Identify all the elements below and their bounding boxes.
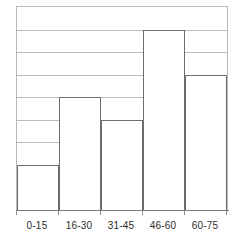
tick-mark [58, 211, 59, 215]
tick-mark [100, 211, 101, 215]
x-axis-tick-label: 16-30 [58, 219, 100, 233]
tick-mark [142, 211, 143, 215]
histogram-chart: 0-1516-3031-4546-6060-75 [0, 0, 239, 242]
x-axis-tick-label: 31-45 [100, 219, 142, 233]
bar [17, 165, 59, 210]
tick-mark [226, 211, 227, 215]
x-axis-line [16, 210, 229, 211]
tick-mark [16, 211, 17, 215]
bar [59, 97, 101, 210]
bars-group [17, 7, 227, 210]
bar [101, 120, 143, 210]
bar [143, 30, 185, 210]
plot-area [16, 6, 228, 211]
x-axis-tick-labels: 0-1516-3031-4546-6060-75 [16, 219, 228, 237]
bar [185, 75, 227, 210]
x-axis-tick-label: 60-75 [184, 219, 226, 233]
tick-mark [184, 211, 185, 215]
x-axis-tick-label: 0-15 [16, 219, 58, 233]
x-axis-tick-label: 46-60 [142, 219, 184, 233]
